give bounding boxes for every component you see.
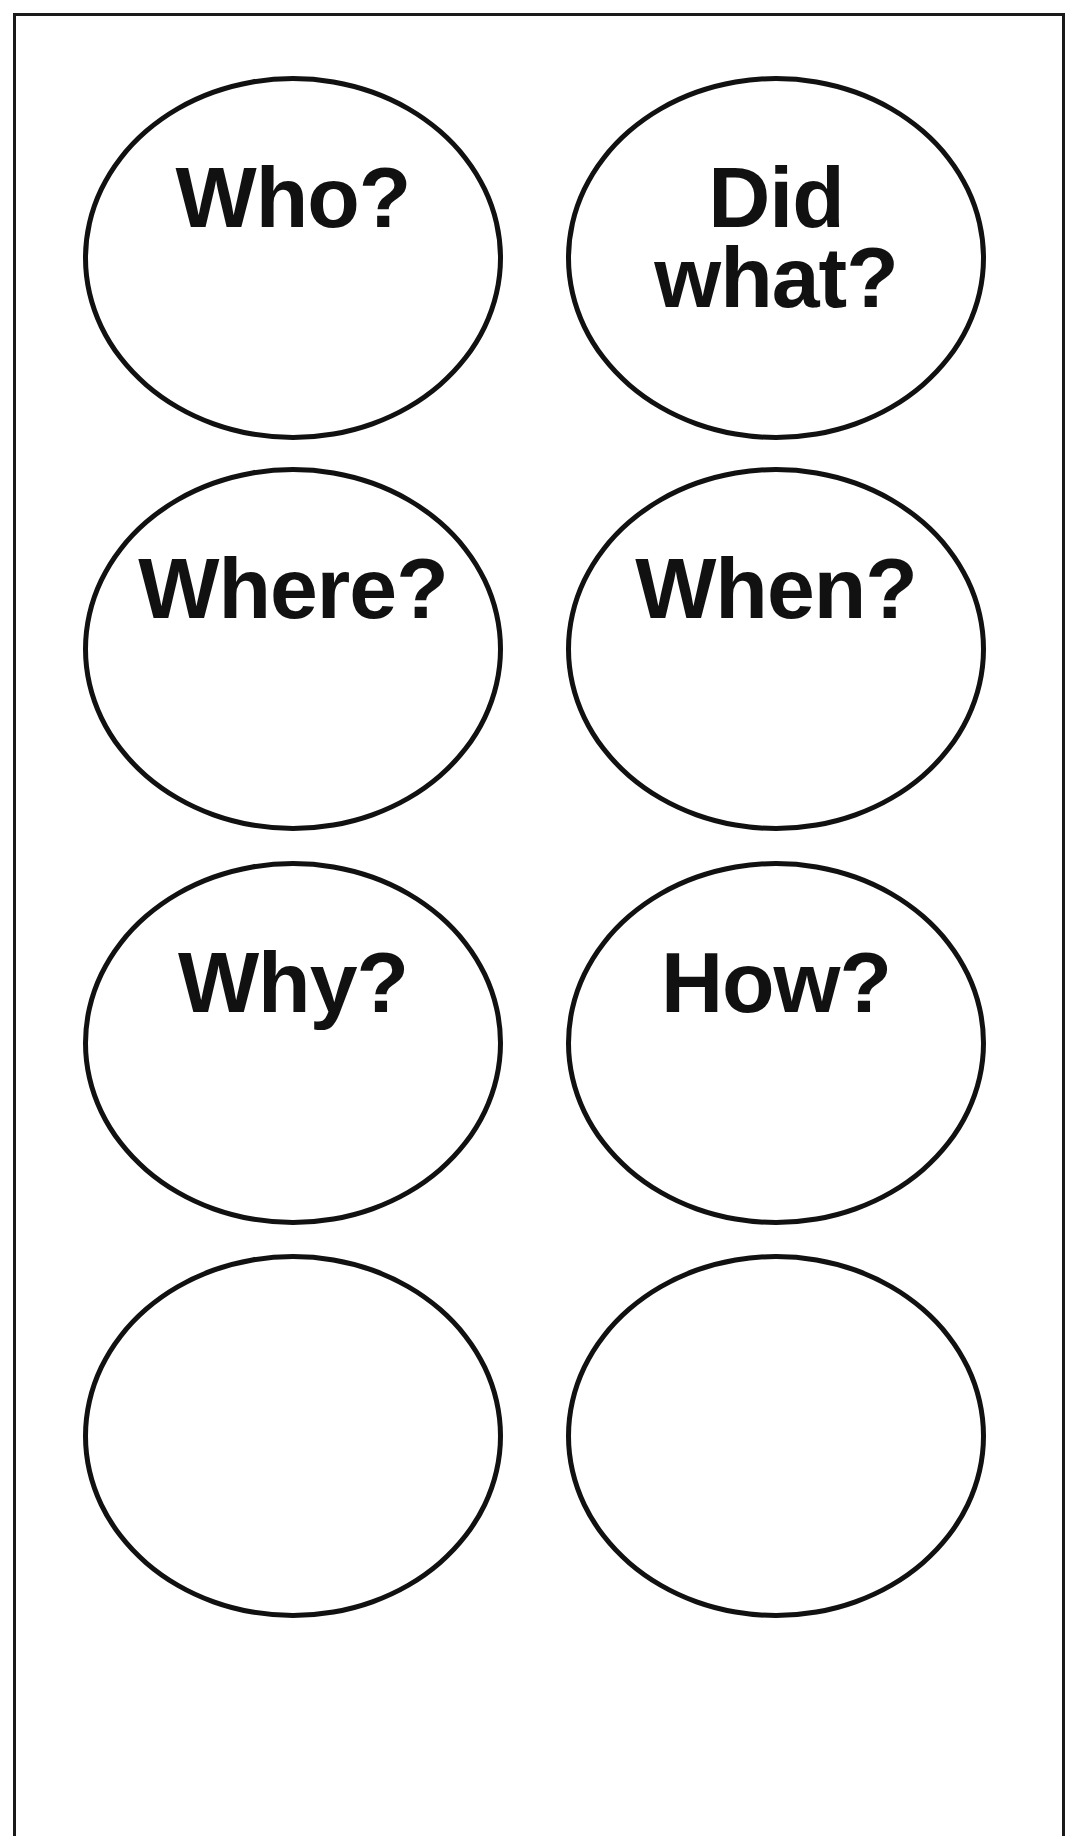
bubble-did-what: Did what? [566,76,986,440]
bubble-when: When? [566,467,986,831]
bubble-label-line: Why? [88,942,498,1022]
bubble-label-line: what? [571,237,981,317]
bubble-label-line: Who? [88,157,498,237]
bubble-label: Why? [88,942,498,1022]
bubble-label: Did what? [571,157,981,317]
bubble-blank-right [566,1254,986,1618]
bubble-where: Where? [83,467,503,831]
bubble-blank-left [83,1254,503,1618]
bubble-label: When? [571,548,981,628]
bubble-label-line: Did [571,157,981,237]
bubble-how: How? [566,861,986,1225]
bubble-why: Why? [83,861,503,1225]
bubble-label: Who? [88,157,498,237]
bubble-label-line: Where? [88,548,498,628]
bubble-label-line: When? [571,548,981,628]
bubble-label: Where? [88,548,498,628]
bubble-label-line: How? [571,942,981,1022]
bubble-who: Who? [83,76,503,440]
bubble-label: How? [571,942,981,1022]
